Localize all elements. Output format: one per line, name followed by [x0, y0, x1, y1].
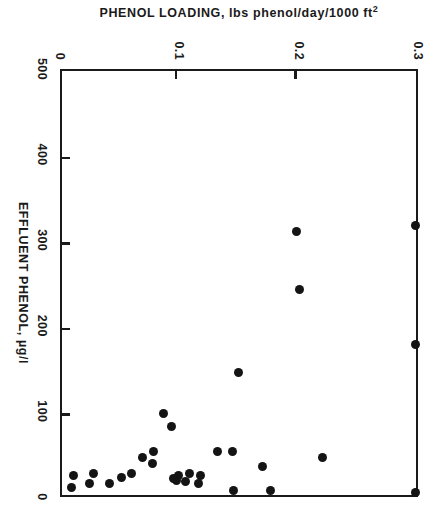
data-point	[149, 447, 158, 456]
data-point	[229, 486, 238, 495]
plot-frame	[60, 69, 418, 497]
data-point	[181, 477, 190, 486]
data-point	[412, 221, 421, 230]
y-axis-title-text: PHENOL LOADING, lbs phenol/day/1000 ft	[100, 6, 373, 20]
y-axis-title-exponent: 2	[373, 4, 379, 14]
data-point	[67, 483, 76, 492]
scatter-plot-figure: 5004003002001000 00.10.20.3 EFFLUENT PHE…	[0, 0, 443, 525]
data-point	[117, 473, 126, 482]
y-axis-tick-label: 0.3	[411, 29, 425, 60]
data-point	[412, 340, 421, 349]
x-axis-tick	[61, 242, 70, 245]
data-point	[194, 479, 203, 488]
x-axis-tick	[61, 157, 70, 160]
y-axis-tick	[294, 70, 297, 79]
data-point	[258, 462, 267, 471]
x-axis-tick-label: 200	[35, 315, 49, 337]
y-axis-tick	[175, 70, 178, 79]
x-axis-tick-label: 400	[35, 144, 49, 166]
data-point	[167, 422, 176, 431]
x-axis-tick-label: 300	[35, 229, 49, 251]
data-point	[148, 459, 157, 468]
y-axis-tick-label: 0	[53, 29, 67, 60]
data-point	[89, 469, 98, 478]
data-point	[266, 486, 275, 495]
data-point	[292, 227, 301, 236]
rotated-figure-wrapper: 5004003002001000 00.10.20.3 EFFLUENT PHE…	[0, 0, 443, 525]
x-axis-tick-label: 500	[35, 58, 49, 80]
x-axis-tick-label: 0	[35, 493, 49, 500]
data-point	[213, 447, 222, 456]
data-point	[128, 469, 137, 478]
data-point	[318, 453, 327, 462]
data-point	[138, 453, 147, 462]
y-axis-tick-label: 0.2	[292, 29, 306, 60]
x-axis-tick	[61, 413, 70, 416]
y-axis-tick-label: 0.1	[172, 29, 186, 60]
x-axis-tick	[61, 328, 70, 331]
data-point	[295, 285, 304, 294]
data-point	[69, 471, 78, 480]
data-point	[85, 479, 94, 488]
data-point	[105, 479, 114, 488]
x-axis-tick-label: 100	[35, 400, 49, 422]
data-point	[228, 447, 237, 456]
y-axis-title: PHENOL LOADING, lbs phenol/day/1000 ft2	[60, 6, 418, 20]
data-point	[159, 409, 168, 418]
data-point	[412, 488, 421, 497]
data-point	[234, 368, 243, 377]
x-axis-title: EFFLUENT PHENOL, µg/l	[16, 69, 30, 497]
